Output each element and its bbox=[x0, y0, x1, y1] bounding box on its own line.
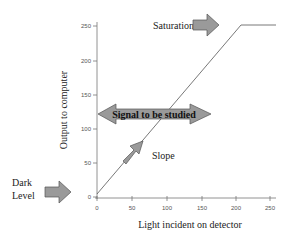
y-tick-250: 250 bbox=[81, 23, 92, 29]
saturation-arrow-icon bbox=[193, 14, 219, 36]
dark-level-label-line2: Level bbox=[12, 190, 35, 201]
signal-label: Signal to be studied bbox=[112, 109, 196, 120]
y-axis-title: Output to computer bbox=[58, 70, 69, 149]
slope-arrow-icon bbox=[123, 141, 143, 164]
y-tick-50: 50 bbox=[84, 160, 91, 166]
x-tick-200: 200 bbox=[231, 205, 242, 211]
dark-level-label-line1: Dark bbox=[12, 177, 32, 188]
x-tick-50: 50 bbox=[129, 205, 136, 211]
y-tick-100: 100 bbox=[81, 126, 92, 132]
x-ticks bbox=[97, 196, 270, 201]
slope-label: Slope bbox=[152, 150, 175, 161]
y-tick-150: 150 bbox=[81, 92, 92, 98]
dark-level-arrow-icon bbox=[45, 181, 71, 203]
y-ticks bbox=[93, 26, 97, 197]
x-tick-250: 250 bbox=[265, 205, 276, 211]
y-tick-200: 200 bbox=[81, 58, 92, 64]
y-tick-0: 0 bbox=[88, 194, 92, 200]
y-tick-labels: 250 200 150 100 50 0 bbox=[81, 23, 92, 200]
x-axis-title: Light incident on detector bbox=[138, 219, 242, 230]
x-tick-150: 150 bbox=[197, 205, 208, 211]
chart-canvas: 250 200 150 100 50 0 0 50 100 150 200 25… bbox=[0, 0, 291, 242]
saturation-label: Saturation bbox=[153, 20, 194, 31]
x-tick-labels: 0 50 100 150 200 250 bbox=[95, 205, 275, 211]
x-tick-0: 0 bbox=[95, 205, 99, 211]
x-tick-100: 100 bbox=[162, 205, 173, 211]
